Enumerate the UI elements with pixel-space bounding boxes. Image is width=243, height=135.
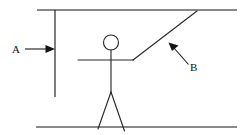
label-b-leader-line xyxy=(174,48,189,65)
figure-leg-left xyxy=(98,92,111,129)
diagram-canvas: A B xyxy=(0,0,243,135)
diagonal-arm-line xyxy=(133,11,197,60)
label-a-arrow-icon xyxy=(46,45,56,53)
label-b-text: B xyxy=(190,61,197,73)
label-a-text: A xyxy=(12,43,20,55)
figure-leg-right xyxy=(111,92,125,131)
figure-head-circle xyxy=(104,35,119,50)
line-diagram: A B xyxy=(0,0,243,135)
label-b-arrow-icon xyxy=(169,43,179,52)
